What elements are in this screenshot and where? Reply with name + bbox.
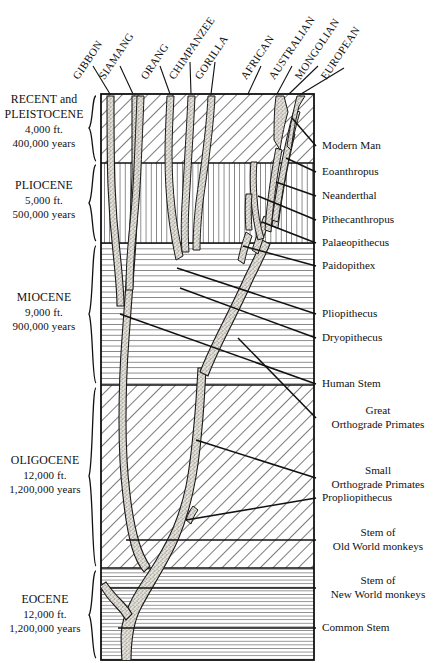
label-text: Eoanthropus: [322, 165, 379, 177]
label-text: Palaeopithecus: [322, 236, 389, 248]
epoch-label-eocene: EOCENE 12,000 ft. 1,200,000 years: [0, 592, 90, 635]
figure-stage: GIBBON SIAMANG ORANG CHIMPANZEE GORILLA …: [0, 0, 441, 663]
right-label-propliopithecus: Propliopithecus: [322, 491, 392, 505]
label-text: Human Stem: [322, 377, 381, 389]
epoch-name-line1: PLIOCENE: [2, 178, 86, 193]
epoch-name-line2: PLEISTOCENE: [2, 107, 86, 122]
label-text-line1: Small: [365, 464, 391, 476]
label-text: Pliopithecus: [322, 307, 377, 319]
right-label-human-stem: Human Stem: [322, 377, 381, 391]
epoch-thickness: 4,000 ft.: [2, 122, 86, 136]
right-label-paidopithex: Paidopithex: [322, 259, 375, 273]
epoch-years: 400,000 years: [2, 136, 86, 150]
right-label-common-stem: Common Stem: [322, 621, 389, 635]
label-text-line1: Stem of: [360, 574, 395, 586]
epoch-thickness: 9,000 ft.: [2, 305, 86, 319]
right-label-great-orthograde-primates: Great Orthograde Primates: [318, 404, 438, 431]
epoch-thickness: 12,000 ft.: [0, 607, 90, 621]
right-label-pliopithecus: Pliopithecus: [322, 307, 377, 321]
right-label-eoanthropus: Eoanthropus: [322, 165, 379, 179]
label-text: Propliopithecus: [322, 491, 392, 503]
label-text: Common Stem: [322, 621, 389, 633]
epoch-name-line1: RECENT and: [2, 92, 86, 107]
epoch-years: 500,000 years: [2, 207, 86, 221]
label-text: Neanderthal: [322, 189, 377, 201]
right-label-neanderthal: Neanderthal: [322, 189, 377, 203]
label-text-line2: Old World monkeys: [333, 540, 423, 552]
epoch-name-line1: EOCENE: [0, 592, 90, 607]
label-text: Pithecanthropus: [322, 213, 394, 225]
label-text: Paidopithex: [322, 259, 375, 271]
branch-african: [245, 194, 252, 230]
right-label-pithecanthropus: Pithecanthropus: [322, 213, 394, 227]
label-text: Modern Man: [322, 139, 381, 151]
epoch-thickness: 12,000 ft.: [0, 468, 90, 482]
right-label-palaeopithecus: Palaeopithecus: [322, 236, 389, 250]
right-label-dryopithecus: Dryopithecus: [322, 331, 382, 345]
epoch-years: 1,200,000 years: [0, 621, 90, 635]
epoch-braces: [89, 96, 96, 658]
epoch-label-pliocene: PLIOCENE 5,000 ft. 500,000 years: [2, 178, 86, 221]
label-text-line2: Orthograde Primates: [332, 478, 425, 490]
epoch-name-line1: MIOCENE: [2, 290, 86, 305]
label-text-line2: Orthograde Primates: [332, 418, 425, 430]
epoch-label-oligocene: OLIGOCENE 12,000 ft. 1,200,000 years: [0, 453, 90, 496]
label-text-line1: Great: [366, 404, 391, 416]
epoch-years: 900,000 years: [2, 319, 86, 333]
epoch-label-recent-pleistocene: RECENT and PLEISTOCENE 4,000 ft. 400,000…: [2, 92, 86, 150]
epoch-years: 1,200,000 years: [0, 482, 90, 496]
right-label-modern-man: Modern Man: [322, 139, 381, 153]
right-label-stem-old-world-monkeys: Stem of Old World monkeys: [316, 526, 440, 553]
epoch-label-miocene: MIOCENE 9,000 ft. 900,000 years: [2, 290, 86, 333]
epoch-name-line1: OLIGOCENE: [0, 453, 90, 468]
right-label-small-orthograde-primates: Small Orthograde Primates: [318, 464, 438, 491]
label-text: Dryopithecus: [322, 331, 382, 343]
label-text-line2: New World monkeys: [331, 588, 426, 600]
epoch-thickness: 5,000 ft.: [2, 193, 86, 207]
right-label-stem-new-world-monkeys: Stem of New World monkeys: [316, 574, 440, 601]
label-text-line1: Stem of: [360, 526, 395, 538]
